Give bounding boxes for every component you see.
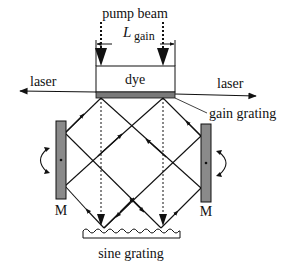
mirror-left-label: M <box>55 203 68 218</box>
gain-grating-leader <box>175 98 207 113</box>
pump-beam-label: pump beam <box>102 6 168 21</box>
pump-beam-right <box>157 22 169 226</box>
svg-text:gain: gain <box>134 29 155 43</box>
l-gain-label: L gain <box>122 24 155 43</box>
mirror-right-label: M <box>200 204 213 219</box>
rotate-arrow-right-icon <box>219 152 226 175</box>
svg-text:L: L <box>122 24 131 40</box>
gain-grating-label: gain grating <box>209 106 276 121</box>
rotate-arrow-left-icon <box>41 149 48 172</box>
sine-grating-label: sine grating <box>98 246 164 261</box>
mirror-left-pivot <box>60 159 63 162</box>
sine-grating <box>83 229 180 238</box>
laser-right-label: laser <box>217 76 244 91</box>
mirror-right-pivot <box>205 162 208 165</box>
cavity-beams <box>65 98 201 228</box>
dye-label: dye <box>125 72 145 87</box>
cavity-diagram: pump beam L gain dye laser laser gain gr… <box>0 0 288 267</box>
gain-grating-bar <box>96 92 175 98</box>
laser-left-label: laser <box>30 74 57 89</box>
pump-beam-left <box>95 22 107 226</box>
